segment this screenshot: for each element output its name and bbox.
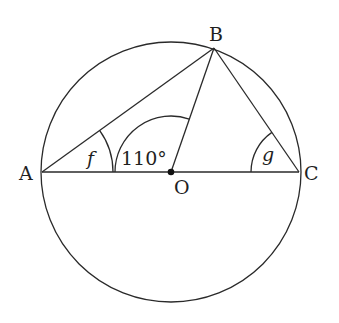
circle-theorem-diagram: A B C O f 110° g [0, 0, 339, 323]
angle-label-110: 110° [121, 147, 167, 169]
vertex-label-C: C [304, 162, 319, 184]
center-point-O [168, 169, 175, 176]
vertex-label-O: O [174, 176, 190, 198]
radius-OB [171, 48, 214, 172]
vertex-label-B: B [209, 23, 223, 45]
vertex-label-A: A [18, 162, 33, 184]
angle-f-arc [100, 130, 113, 172]
angle-label-f: f [85, 147, 97, 169]
angle-label-g: g [262, 143, 274, 165]
chord-BC [214, 48, 299, 172]
